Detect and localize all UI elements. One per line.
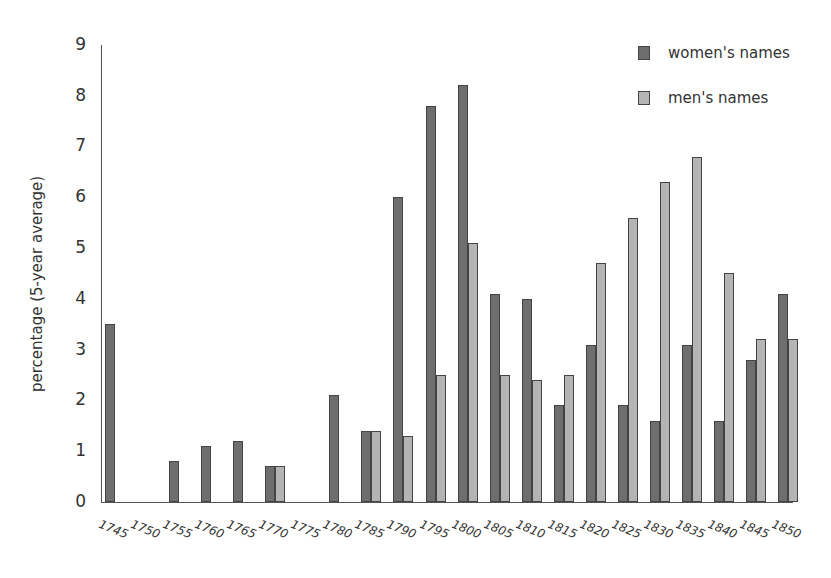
bar-men-1850 xyxy=(788,339,798,502)
bar-women-1825 xyxy=(618,405,628,502)
x-tick-label: 1845 xyxy=(738,517,772,541)
bar-women-1810 xyxy=(522,299,532,502)
bar-women-1790 xyxy=(393,197,403,502)
bar-women-1780 xyxy=(329,395,339,502)
y-tick-label: 1 xyxy=(66,440,86,460)
x-tick-label: 1790 xyxy=(385,517,419,541)
bar-men-1770 xyxy=(275,466,285,502)
bar-men-1825 xyxy=(628,218,638,502)
bar-men-1800 xyxy=(468,243,478,502)
bar-men-1810 xyxy=(532,380,542,502)
bar-women-1755 xyxy=(169,461,179,502)
bar-men-1805 xyxy=(500,375,510,502)
bar-women-1830 xyxy=(650,421,660,502)
bar-men-1840 xyxy=(724,273,734,502)
bar-men-1795 xyxy=(436,375,446,502)
bar-men-1845 xyxy=(756,339,766,502)
bar-women-1815 xyxy=(554,405,564,502)
x-tick-label: 1785 xyxy=(353,517,387,541)
x-tick-label: 1805 xyxy=(481,517,515,541)
bar-women-1820 xyxy=(586,345,596,502)
legend-item-men: men's names xyxy=(638,89,768,107)
bar-women-1835 xyxy=(682,345,692,502)
x-tick-label: 1830 xyxy=(642,517,676,541)
x-tick-label: 1835 xyxy=(674,517,708,541)
x-tick-label: 1810 xyxy=(513,517,547,541)
x-tick-label: 1850 xyxy=(770,517,804,541)
bar-chart: 0123456789 17451750175517601765177017751… xyxy=(0,0,831,578)
y-axis-label: percentage (5-year average) xyxy=(28,176,46,392)
legend-label-women: women's names xyxy=(668,44,790,62)
y-axis-line xyxy=(101,45,102,503)
y-tick-label: 8 xyxy=(66,85,86,105)
x-tick-label: 1755 xyxy=(161,517,195,541)
bar-women-1840 xyxy=(714,421,724,502)
y-tick-label: 2 xyxy=(66,389,86,409)
legend-label-men: men's names xyxy=(668,89,768,107)
x-tick-label: 1820 xyxy=(578,517,612,541)
bar-women-1765 xyxy=(233,441,243,502)
bar-women-1785 xyxy=(361,431,371,502)
x-axis-line xyxy=(101,502,793,503)
x-tick-label: 1750 xyxy=(129,517,163,541)
y-tick-label: 0 xyxy=(66,491,86,511)
bar-men-1835 xyxy=(692,157,702,502)
bar-women-1745 xyxy=(105,324,115,502)
bar-women-1850 xyxy=(778,294,788,502)
x-tick-label: 1770 xyxy=(257,517,291,541)
bar-women-1760 xyxy=(201,446,211,502)
bar-men-1785 xyxy=(371,431,381,502)
x-tick-label: 1815 xyxy=(545,517,579,541)
bar-women-1770 xyxy=(265,466,275,502)
y-tick-label: 7 xyxy=(66,135,86,155)
x-tick-label: 1765 xyxy=(225,517,259,541)
bar-men-1820 xyxy=(596,263,606,502)
x-tick-label: 1840 xyxy=(706,517,740,541)
x-tick-label: 1795 xyxy=(417,517,451,541)
bar-men-1790 xyxy=(403,436,413,502)
legend-swatch-women xyxy=(638,46,650,60)
y-tick-label: 9 xyxy=(66,34,86,54)
y-tick-label: 3 xyxy=(66,339,86,359)
x-tick-label: 1800 xyxy=(449,517,483,541)
bar-men-1830 xyxy=(660,182,670,502)
x-tick-label: 1775 xyxy=(289,517,323,541)
x-tick-label: 1825 xyxy=(610,517,644,541)
bar-men-1815 xyxy=(564,375,574,502)
y-tick-label: 4 xyxy=(66,288,86,308)
bar-women-1845 xyxy=(746,360,756,502)
bar-women-1795 xyxy=(426,106,436,502)
y-tick-label: 6 xyxy=(66,186,86,206)
x-tick-label: 1745 xyxy=(97,517,131,541)
legend-swatch-men xyxy=(638,91,650,105)
bar-women-1800 xyxy=(458,85,468,502)
bar-women-1805 xyxy=(490,294,500,502)
x-tick-label: 1780 xyxy=(321,517,355,541)
legend-item-women: women's names xyxy=(638,44,790,62)
y-tick-label: 5 xyxy=(66,237,86,257)
x-tick-label: 1760 xyxy=(193,517,227,541)
